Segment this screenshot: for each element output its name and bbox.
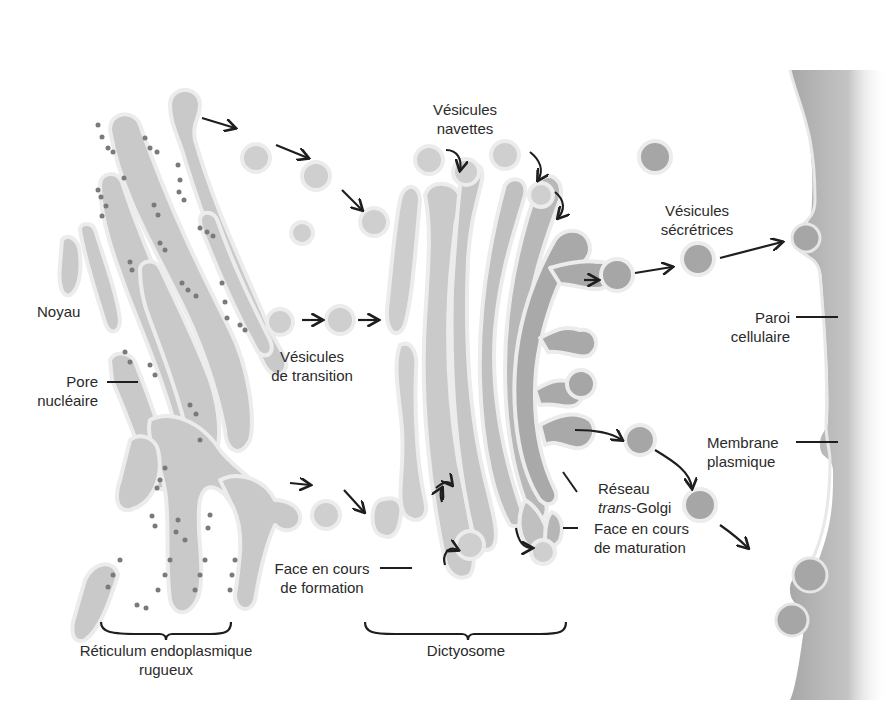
label-reseau-golgi: -Golgi [631,499,671,516]
label-rer-line1: Réticulum endoplasmique [66,641,266,660]
label-vesicules-navettes: Vésicules navettes [395,100,535,138]
label-dictyosome-text: Dictyosome [416,641,516,660]
label-transition-line1: Vésicules [252,347,372,366]
label-transition-line2: de transition [252,366,372,385]
label-navettes-line1: Vésicules [395,100,535,119]
label-dictyosome: Dictyosome [416,641,516,660]
label-reseau-line2: trans-Golgi [598,498,671,517]
label-membrane-line1: Membrane [707,433,779,452]
label-pore-nucleaire: Pore nucléaire [28,372,98,410]
label-secretrices-line2: sécrétrices [642,220,752,239]
label-vesicules-secretrices: Vésicules sécrétrices [642,201,752,239]
label-paroi-line1: Paroi [700,308,790,327]
label-face-formation: Face en cours de formation [262,559,382,597]
label-secretrices-line1: Vésicules [642,201,752,220]
label-maturation-line1: Face en cours [594,519,689,538]
label-membrane-line2: plasmique [707,452,779,471]
label-formation-line2: de formation [262,578,382,597]
label-noyau: Noyau [37,302,80,321]
label-rer-line2: rugueux [66,660,266,679]
label-reseau-trans: trans [598,499,631,516]
label-maturation-line2: de maturation [594,538,689,557]
braces [101,622,566,640]
label-reseau-line1: Réseau [598,479,671,498]
label-noyau-text: Noyau [37,303,80,320]
label-pore-line1: Pore [28,372,98,391]
cell-wall [790,70,887,700]
label-formation-line1: Face en cours [262,559,382,578]
label-vesicules-transition: Vésicules de transition [252,347,372,385]
label-paroi-cellulaire: Paroi cellulaire [700,308,790,346]
label-reseau-trans-golgi: Réseau trans-Golgi [598,479,671,517]
label-pore-line2: nucléaire [28,391,98,410]
label-navettes-line2: navettes [395,119,535,138]
label-paroi-line2: cellulaire [700,327,790,346]
label-face-maturation: Face en cours de maturation [594,519,689,557]
label-membrane-plasmique: Membrane plasmique [707,433,779,471]
label-reticulum-endoplasmique: Réticulum endoplasmique rugueux [66,641,266,679]
